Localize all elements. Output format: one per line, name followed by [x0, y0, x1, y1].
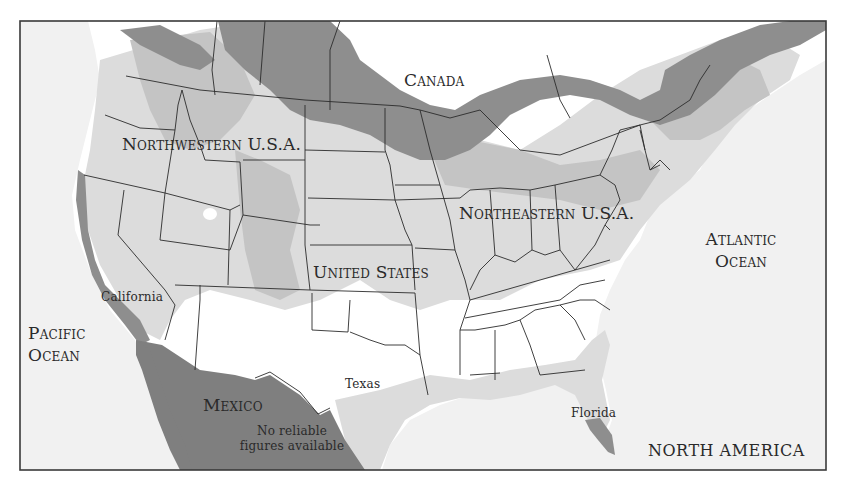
label-mexico-note-line1: No reliable [236, 424, 348, 439]
label-pacific-line1: Pacific [28, 322, 86, 344]
label-pacific-ocean: Pacific Ocean [28, 322, 86, 366]
label-northwestern-usa: Northwestern U.S.A. [122, 134, 301, 154]
label-california: California [101, 290, 163, 304]
label-pacific-line2: Ocean [28, 344, 86, 366]
label-atlantic-ocean: Atlantic Ocean [696, 228, 786, 272]
label-atlantic-line1: Atlantic [696, 228, 786, 250]
label-united-states: United States [313, 262, 429, 282]
region-salt-lake [203, 208, 217, 220]
label-canada: Canada [404, 70, 464, 90]
label-mexico: Mexico [203, 395, 263, 415]
label-texas: Texas [345, 377, 380, 391]
label-northeastern-usa: Northeastern U.S.A. [459, 203, 634, 223]
label-mexico-note: No reliable figures available [236, 424, 348, 454]
label-mexico-note-line2: figures available [236, 439, 348, 454]
label-atlantic-line2: Ocean [696, 250, 786, 272]
label-florida: Florida [571, 406, 616, 420]
label-north-america: NORTH AMERICA [648, 441, 805, 460]
